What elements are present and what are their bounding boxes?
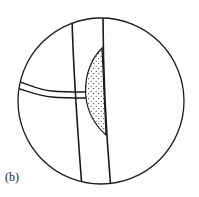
panel-label: (b): [5, 170, 19, 185]
diagram-canvas: [0, 0, 199, 197]
